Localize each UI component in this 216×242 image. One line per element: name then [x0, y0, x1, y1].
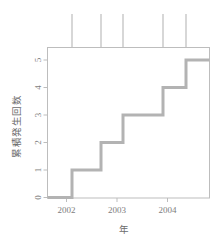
step-chart: 0 1 2 3 4 5 累積発生回数 2002 2003 2004 年 — [0, 0, 216, 242]
x-tick-label: 2002 — [58, 205, 76, 215]
y-tick-label: 2 — [33, 140, 43, 145]
x-tick-label: 2004 — [159, 205, 178, 215]
y-tick-label: 3 — [33, 112, 43, 117]
x-axis-title: 年 — [119, 224, 130, 235]
y-tick-label: 5 — [33, 57, 43, 62]
y-tick-label: 1 — [33, 168, 43, 173]
x-axis-tick-labels: 2002 2003 2004 — [58, 205, 178, 215]
x-tick-label: 2003 — [108, 205, 127, 215]
y-tick-label: 4 — [33, 85, 43, 90]
y-axis-title: 累積発生回数 — [11, 95, 22, 158]
y-tick-label: 0 — [33, 195, 43, 200]
chart-figure: 0 1 2 3 4 5 累積発生回数 2002 2003 2004 年 — [0, 0, 216, 242]
